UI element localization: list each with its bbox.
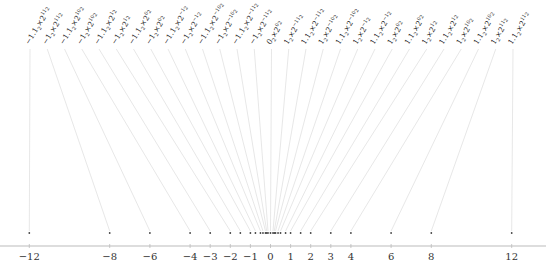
connector-lines bbox=[29, 49, 513, 231]
value-dot bbox=[285, 232, 287, 234]
value-dot bbox=[255, 232, 257, 234]
value-dot bbox=[300, 232, 302, 234]
connector-line bbox=[99, 49, 210, 231]
axis-tick-label: 4 bbox=[348, 251, 354, 262]
connector-line bbox=[134, 49, 241, 231]
float-number-line-diagram: −1.12×2112−12×2112−1.12×2102−12×2102−1.1… bbox=[0, 0, 546, 273]
connector-line bbox=[237, 49, 267, 231]
connector-line bbox=[116, 49, 230, 231]
axis-ticks: −12−8−6−4−3−2−1012346812 bbox=[19, 244, 518, 262]
connector-line bbox=[278, 49, 340, 231]
value-dot bbox=[277, 232, 279, 234]
value-dot bbox=[270, 232, 272, 234]
value-dot bbox=[390, 232, 392, 234]
connector-line bbox=[301, 49, 410, 231]
connector-line bbox=[185, 49, 260, 231]
axis-tick-label: −8 bbox=[102, 251, 117, 262]
axis-tick-label: −2 bbox=[223, 251, 238, 262]
connector-line bbox=[276, 49, 324, 231]
value-dot bbox=[511, 232, 513, 234]
axis-tick-label: 0 bbox=[267, 251, 273, 262]
axis-tick-label: 2 bbox=[308, 251, 314, 262]
value-dot bbox=[250, 232, 252, 234]
axis-tick-label: 12 bbox=[505, 251, 518, 262]
value-dot bbox=[350, 232, 352, 234]
connector-line bbox=[291, 49, 393, 231]
axis-tick-label: −4 bbox=[183, 251, 198, 262]
float-representation-labels: −1.12×2112−12×2112−1.12×2102−12×2102−1.1… bbox=[22, 1, 534, 46]
value-dot bbox=[239, 232, 241, 234]
value-dot bbox=[28, 232, 30, 234]
connector-line bbox=[65, 49, 150, 231]
value-dot bbox=[430, 232, 432, 234]
value-dot bbox=[260, 232, 262, 234]
connector-line bbox=[331, 49, 444, 231]
value-dots bbox=[28, 232, 512, 234]
value-dot bbox=[310, 232, 312, 234]
connector-line bbox=[311, 49, 427, 231]
connector-line bbox=[151, 49, 251, 231]
value-dot bbox=[262, 232, 264, 234]
connector-line bbox=[281, 49, 358, 231]
connector-line bbox=[351, 49, 461, 231]
axis-tick-label: −6 bbox=[143, 251, 158, 262]
axis-tick-label: −12 bbox=[19, 251, 40, 262]
connector-line bbox=[273, 49, 289, 231]
axis-tick-label: 8 bbox=[428, 251, 434, 262]
connector-line bbox=[271, 49, 272, 231]
connector-line bbox=[391, 49, 478, 231]
connector-line bbox=[82, 49, 190, 231]
connector-line bbox=[512, 49, 513, 231]
connector-line bbox=[29, 49, 30, 231]
axis-tick-label: 3 bbox=[328, 251, 334, 262]
value-dot bbox=[149, 232, 151, 234]
axis-tick-label: 6 bbox=[388, 251, 394, 262]
value-dot bbox=[280, 232, 282, 234]
connector-line bbox=[47, 49, 109, 231]
value-dot bbox=[290, 232, 292, 234]
axis-tick-label: 1 bbox=[287, 251, 293, 262]
value-dot bbox=[275, 232, 277, 234]
connector-line bbox=[286, 49, 375, 231]
value-dot bbox=[330, 232, 332, 234]
value-dot bbox=[109, 232, 111, 234]
connector-line bbox=[431, 49, 495, 231]
value-dot bbox=[229, 232, 231, 234]
value-dot bbox=[189, 232, 191, 234]
axis-tick-label: −1 bbox=[243, 251, 258, 262]
value-dot bbox=[209, 232, 211, 234]
axis-tick-label: −3 bbox=[203, 251, 218, 262]
connector-line bbox=[254, 49, 268, 231]
value-dot bbox=[267, 232, 269, 234]
connector-line bbox=[274, 49, 306, 231]
float-label: 1.12×2112 bbox=[505, 10, 534, 46]
